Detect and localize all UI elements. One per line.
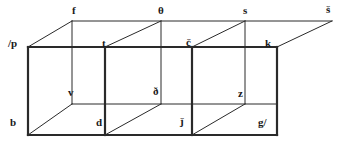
vertex-label-s: s bbox=[243, 5, 247, 16]
diagram-canvas: /pfθsštčkvðzbdǰg/ bbox=[0, 0, 343, 145]
edge-depth-k-to-s-caron bbox=[277, 21, 332, 47]
vertex-label-shacek: š bbox=[326, 4, 330, 15]
edge-depth-c-to-s bbox=[192, 21, 245, 47]
edge-depth-t-to-theta bbox=[105, 21, 161, 47]
vertex-label-g: g/ bbox=[258, 117, 267, 128]
vertex-label-eth: ð bbox=[153, 86, 159, 97]
vertex-label-f: f bbox=[72, 5, 76, 16]
edge-depth-p-to-f bbox=[28, 21, 72, 47]
vertex-label-k: k bbox=[265, 38, 271, 49]
vertex-label-theta: θ bbox=[158, 5, 164, 16]
edge-depth-d-to-eth bbox=[105, 104, 161, 135]
edge-depth-b-to-v bbox=[28, 104, 72, 135]
vertex-label-b: b bbox=[10, 117, 16, 128]
vertex-label-d: d bbox=[96, 117, 102, 128]
vertex-label-t: t bbox=[102, 38, 106, 49]
vertex-label-jcaron: ǰ bbox=[180, 116, 184, 127]
vertex-label-ccaron: č bbox=[186, 37, 191, 48]
vertex-label-v: v bbox=[68, 87, 74, 98]
edge-depth-j-to-z bbox=[192, 104, 245, 135]
consonant-cube-svg bbox=[0, 0, 343, 145]
vertex-label-z: z bbox=[238, 88, 243, 99]
vertex-label-p: /p bbox=[8, 38, 17, 49]
